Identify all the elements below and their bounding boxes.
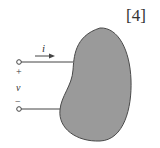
voltage-label: v (16, 82, 21, 93)
reference-number: [4] (126, 6, 146, 25)
element-blob (60, 28, 131, 141)
current-arrow-icon (35, 54, 55, 59)
two-terminal-element-diagram: [4] i + v − (0, 0, 160, 148)
current-label: i (42, 42, 45, 54)
lower-terminal (17, 107, 22, 112)
minus-sign: − (15, 96, 21, 107)
plus-sign: + (16, 66, 22, 77)
upper-terminal (17, 60, 22, 65)
